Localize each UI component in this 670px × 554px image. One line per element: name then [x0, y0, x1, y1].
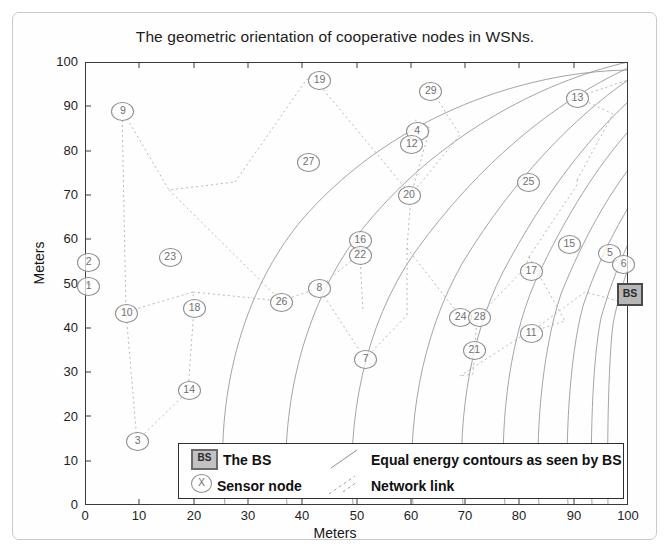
legend-sample-lines: [327, 446, 371, 498]
chart-title: The geometric orientation of cooperative…: [0, 28, 670, 46]
x-tick-60: 60: [391, 508, 431, 523]
x-axis-label: Meters: [0, 525, 670, 541]
x-tick-0: 0: [65, 508, 105, 523]
legend-bs-icon: BS: [191, 449, 218, 470]
sensor-node-2: 2: [77, 253, 100, 272]
legend-contours-label: Equal energy contours as seen by BS: [371, 447, 622, 473]
x-tick-50: 50: [337, 508, 377, 523]
y-tick-80: 80: [38, 143, 78, 158]
y-tick-20: 20: [38, 409, 78, 424]
sensor-node-22: 22: [349, 246, 372, 265]
x-tick-80: 80: [499, 508, 539, 523]
plot-border: [85, 62, 628, 505]
x-tick-30: 30: [228, 508, 268, 523]
x-tick-100: 100: [608, 508, 648, 523]
y-axis-label: Meters: [31, 218, 47, 308]
y-tick-70: 70: [38, 187, 78, 202]
legend-box: BS X The BS Sensor node Equal energy con…: [178, 443, 624, 499]
sensor-node-13: 13: [566, 89, 589, 108]
legend-bs-label: The BS: [223, 447, 271, 473]
y-tick-100: 100: [38, 54, 78, 69]
sensor-node-23: 23: [159, 248, 182, 267]
legend-link-label: Network link: [371, 473, 454, 499]
sensor-node-15: 15: [558, 235, 581, 254]
sensor-node-20: 20: [398, 186, 421, 205]
sensor-node-6: 6: [612, 255, 635, 274]
sensor-node-10: 10: [115, 304, 138, 323]
legend-sensor-icon: X: [191, 474, 212, 493]
plot-area: [85, 62, 628, 505]
x-tick-70: 70: [445, 508, 485, 523]
y-tick-40: 40: [38, 320, 78, 335]
x-tick-90: 90: [554, 508, 594, 523]
y-tick-90: 90: [38, 98, 78, 113]
sensor-node-25: 25: [517, 173, 540, 192]
y-tick-10: 10: [38, 453, 78, 468]
legend-sensor-label: Sensor node: [217, 473, 302, 499]
x-tick-20: 20: [174, 508, 214, 523]
y-tick-30: 30: [38, 364, 78, 379]
x-tick-40: 40: [282, 508, 322, 523]
sensor-node-17: 17: [520, 262, 543, 281]
sensor-node-14: 14: [178, 381, 201, 400]
sensor-node-26: 26: [270, 293, 293, 312]
base-station-marker: BS: [617, 283, 643, 306]
x-tick-10: 10: [119, 508, 159, 523]
sensor-node-11: 11: [520, 324, 543, 343]
